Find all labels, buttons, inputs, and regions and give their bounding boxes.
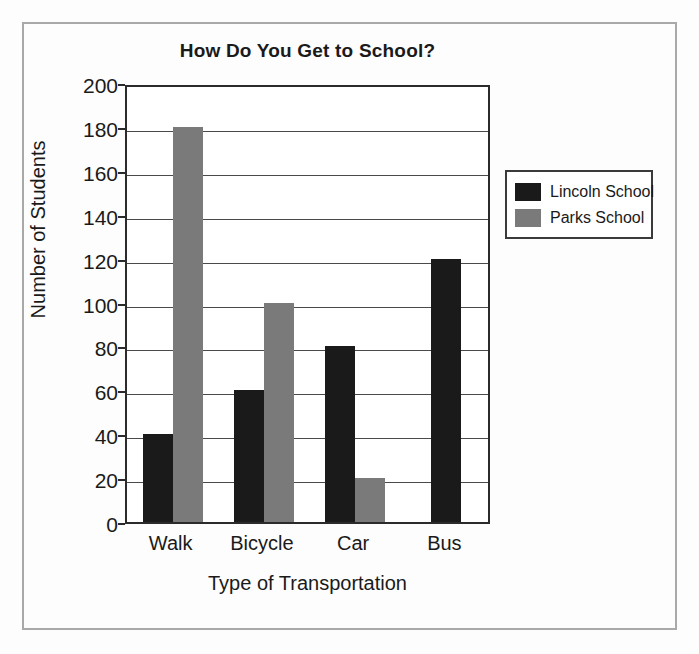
y-axis-tick-label: 80 bbox=[58, 338, 118, 359]
x-axis-title: Type of Transportation bbox=[125, 572, 490, 595]
plot-area bbox=[125, 85, 490, 524]
x-axis-tick-label-walk: Walk bbox=[125, 532, 216, 555]
legend-item: Lincoln School bbox=[515, 179, 643, 205]
chart-title: How Do You Get to School? bbox=[125, 40, 490, 62]
legend-swatch-icon bbox=[515, 209, 541, 227]
y-axis-tick-mark bbox=[118, 523, 125, 525]
x-axis-tick-label-bus: Bus bbox=[399, 532, 490, 555]
legend-item-label: Lincoln School bbox=[550, 183, 654, 201]
y-axis-tick-label: 0 bbox=[58, 514, 118, 535]
y-axis-tick-label: 120 bbox=[58, 250, 118, 271]
bar-walk-parks-school bbox=[173, 127, 203, 522]
y-axis-tick-mark bbox=[118, 84, 125, 86]
y-axis-tick-mark bbox=[118, 435, 125, 437]
y-axis-tick-mark bbox=[118, 128, 125, 130]
legend-item: Parks School bbox=[515, 205, 643, 231]
bar-bicycle-lincoln-school bbox=[234, 390, 264, 522]
y-axis-tick-mark bbox=[118, 260, 125, 262]
y-axis-tick-label: 40 bbox=[58, 426, 118, 447]
y-axis-tick-label: 60 bbox=[58, 382, 118, 403]
y-axis-tick-mark bbox=[118, 216, 125, 218]
y-axis-tick-label: 100 bbox=[58, 294, 118, 315]
y-axis-tick-mark bbox=[118, 304, 125, 306]
y-axis-tick-labels: 020406080100120140160180200 bbox=[48, 85, 118, 524]
bar-bicycle-parks-school bbox=[264, 303, 294, 523]
bar-bus-lincoln-school bbox=[431, 259, 461, 522]
legend-swatch-icon bbox=[515, 183, 541, 201]
bar-car-lincoln-school bbox=[325, 346, 355, 522]
y-axis-tick-label: 160 bbox=[58, 162, 118, 183]
y-axis-tick-label: 140 bbox=[58, 206, 118, 227]
bar-car-parks-school bbox=[355, 478, 385, 522]
x-axis-tick-label-car: Car bbox=[308, 532, 399, 555]
y-axis-tick-label: 180 bbox=[58, 118, 118, 139]
legend-item-label: Parks School bbox=[550, 209, 644, 227]
chart-figure: How Do You Get to School? Number of Stud… bbox=[0, 0, 699, 654]
y-axis-tick-mark bbox=[118, 172, 125, 174]
y-axis-tick-mark bbox=[118, 347, 125, 349]
y-axis-tick-label: 200 bbox=[58, 75, 118, 96]
y-axis-title: Number of Students bbox=[27, 130, 50, 330]
x-axis-tick-labels: WalkBicycleCarBus bbox=[125, 532, 490, 562]
y-axis-tick-mark bbox=[118, 391, 125, 393]
bar-walk-lincoln-school bbox=[143, 434, 173, 522]
y-axis-tick-label: 20 bbox=[58, 470, 118, 491]
y-axis-tick-mark bbox=[118, 479, 125, 481]
chart-legend: Lincoln SchoolParks School bbox=[505, 170, 653, 239]
x-axis-tick-label-bicycle: Bicycle bbox=[216, 532, 307, 555]
plot-inner bbox=[127, 87, 488, 522]
